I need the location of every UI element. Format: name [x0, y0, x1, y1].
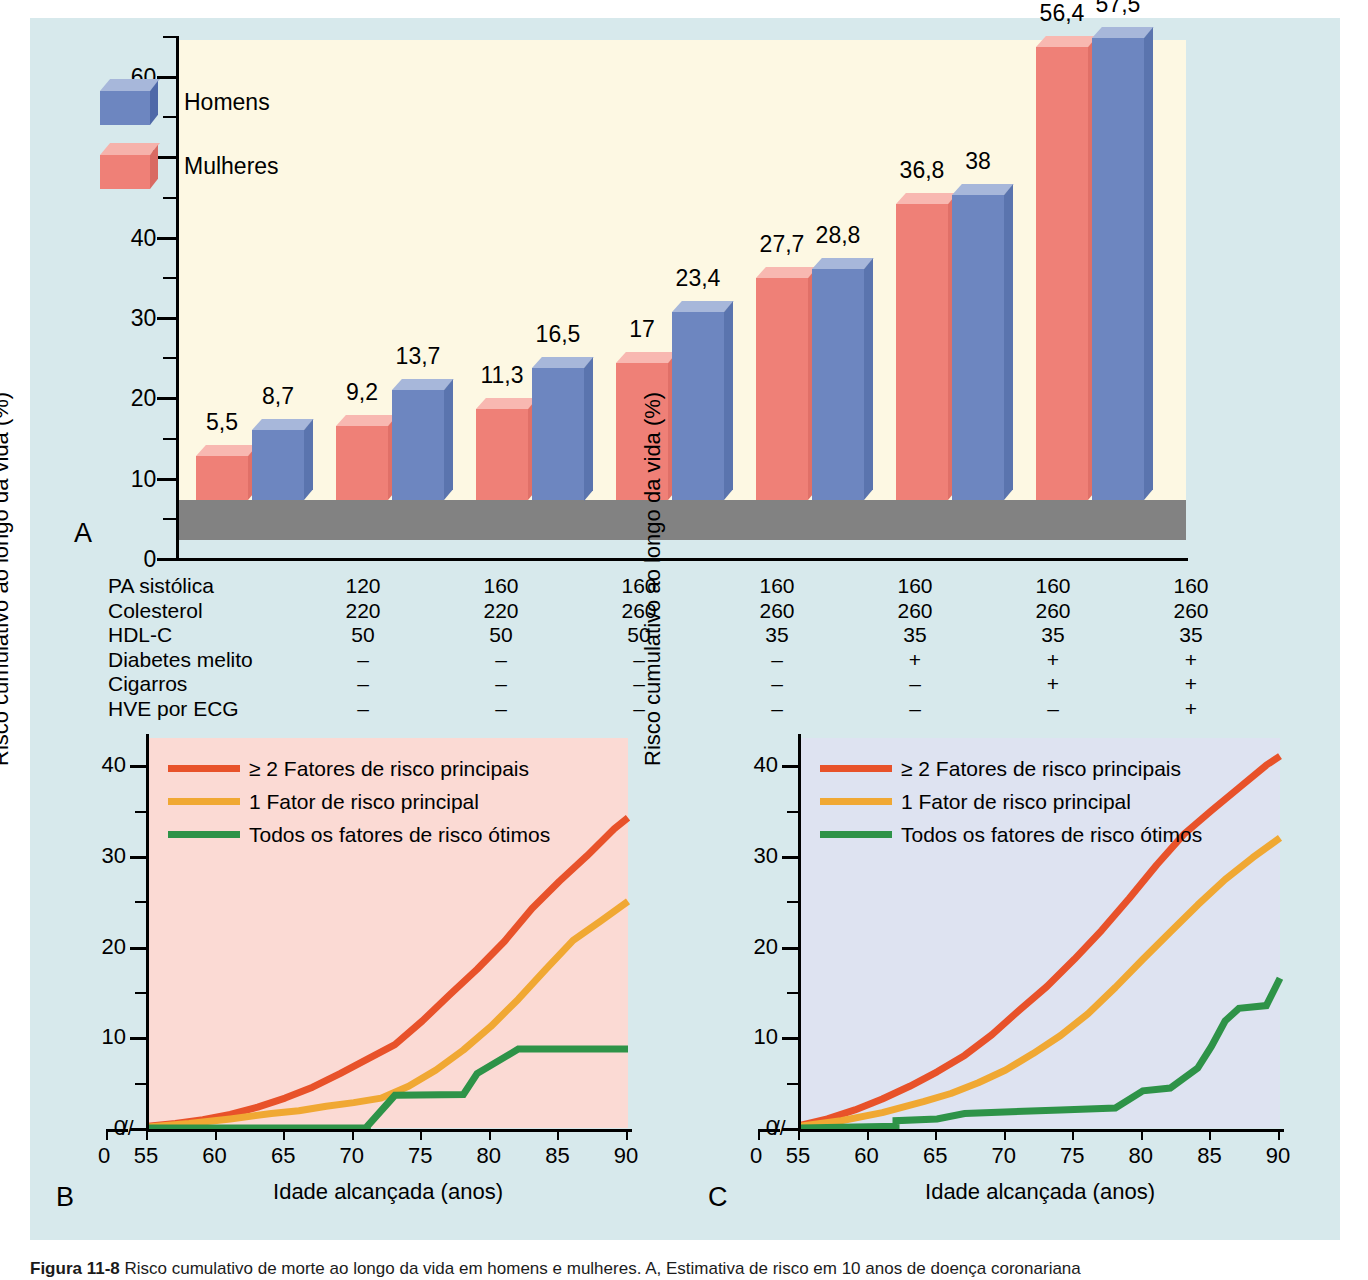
y-tick: 10: [782, 1037, 798, 1040]
panel-a-bar-homens: 8,7: [252, 430, 304, 500]
y-tick: 40: [130, 765, 146, 768]
risk-factor-value: 160: [570, 574, 708, 598]
x-tick-zero: [758, 1129, 760, 1140]
risk-factor-value: –: [984, 697, 1122, 721]
x-tick: [1209, 1129, 1211, 1140]
legend-label: ≥ 2 Fatores de risco principais: [249, 757, 529, 781]
y-tick: [787, 901, 798, 903]
risk-factor-label: HVE por ECG: [108, 697, 294, 721]
curve-two-plus: [148, 818, 628, 1126]
x-tick: [1278, 1129, 1280, 1140]
panel-a-bar-homens: 23,4: [672, 312, 724, 500]
bar-side-face: [1144, 28, 1153, 500]
x-tick-label: 70: [339, 1143, 363, 1169]
y-tick-label: 10: [102, 1024, 126, 1050]
y-tick-label: 30: [102, 843, 126, 869]
legend-item: ≥ 2 Fatores de risco principais: [168, 752, 550, 785]
legend-label: Todos os fatores de risco ótimos: [249, 823, 550, 847]
axis-break-icon: //: [122, 1116, 134, 1140]
x-tick: [798, 1129, 800, 1140]
panel-a-legend-item-men: Homens: [100, 70, 279, 134]
risk-factor-value: 35: [846, 623, 984, 647]
panel-a-bar-homens: 28,8: [812, 269, 864, 500]
risk-factor-value: –: [432, 697, 570, 721]
bar-side-face: [584, 357, 593, 500]
figure-caption: Figura 11-8 Risco cumulativo de morte ao…: [30, 1259, 1350, 1279]
panel-c-y-axis-title: Risco cumulativo ao longo da vida (%): [640, 392, 666, 766]
panel-a-y-tick-label: 10: [131, 466, 157, 493]
bar-side-face: [1004, 184, 1013, 500]
legend-line-swatch: [168, 798, 240, 805]
caption-figure-number: Figura 11-8: [30, 1259, 120, 1278]
y-tick: 20: [130, 947, 146, 950]
bar-front-face: [812, 269, 864, 500]
table-row: Diabetes melito––––+++: [108, 648, 1338, 673]
axis-break-icon: //: [774, 1116, 786, 1140]
risk-factor-value: +: [846, 648, 984, 672]
curve-one-factor: [800, 838, 1280, 1126]
x-tick-label: 80: [1129, 1143, 1153, 1169]
risk-factor-value: 160: [984, 574, 1122, 598]
panel-a-y-tick-label: 30: [131, 305, 157, 332]
y-tick: [787, 1083, 798, 1085]
panel-a-floor-plane: [178, 500, 1186, 540]
panel-b-x-axis: 05560657075808590: [146, 1129, 632, 1132]
panel-b-y-axis: 010203040: [146, 734, 149, 1132]
risk-factor-value: 120: [294, 574, 432, 598]
bar-front-face: [672, 312, 724, 500]
curve-one-factor: [148, 901, 628, 1127]
x-tick-label: 55: [134, 1143, 158, 1169]
panel-a-bar-mulheres: 56,4: [1036, 47, 1088, 500]
panel-a-bar-value-label: 5,5: [206, 409, 238, 436]
y-tick-label: 20: [754, 934, 778, 960]
panel-a-y-tick-label: 40: [131, 225, 157, 252]
bar-side-face: [444, 379, 453, 500]
panel-a-bar-mulheres: 36,8: [896, 204, 948, 500]
x-tick-zero: [106, 1129, 108, 1140]
risk-factor-value: 35: [984, 623, 1122, 647]
x-tick-label: 60: [202, 1143, 226, 1169]
x-tick: [1004, 1129, 1006, 1140]
y-tick: [135, 901, 146, 903]
legend-label: Todos os fatores de risco ótimos: [901, 823, 1202, 847]
panel-a-bar-value-label: 28,8: [816, 222, 861, 249]
risk-factor-table: PA sistólica120160160160160160160Coleste…: [108, 574, 1338, 721]
risk-factor-value: 220: [432, 599, 570, 623]
risk-factor-value: 35: [1122, 623, 1260, 647]
x-tick: [867, 1129, 869, 1140]
risk-factor-value: –: [432, 648, 570, 672]
panel-a-letter: A: [74, 518, 92, 549]
y-tick: [135, 992, 146, 994]
risk-factor-label: PA sistólica: [108, 574, 294, 598]
y-tick: [787, 992, 798, 994]
risk-factor-value: +: [1122, 697, 1260, 721]
risk-factor-value: 260: [1122, 599, 1260, 623]
x-tick-label: 90: [1266, 1143, 1290, 1169]
legend-line-swatch: [820, 765, 892, 772]
x-tick: [146, 1129, 148, 1140]
x-axis-zero-stub: [758, 1129, 780, 1132]
risk-factor-value: –: [846, 697, 984, 721]
risk-factor-value: –: [708, 672, 846, 696]
y-tick: 40: [782, 765, 798, 768]
risk-factor-value: 160: [708, 574, 846, 598]
bar-side-face: [864, 258, 873, 500]
risk-factor-value: –: [294, 672, 432, 696]
panel-c-x-axis: 05560657075808590: [798, 1129, 1284, 1132]
x-tick-label: 0: [750, 1143, 762, 1169]
legend-line-swatch: [820, 831, 892, 838]
risk-factor-value: 260: [846, 599, 984, 623]
table-row: Cigarros–––––++: [108, 672, 1338, 697]
y-tick-label: 40: [754, 752, 778, 778]
x-tick-label: 90: [614, 1143, 638, 1169]
bar-front-face: [756, 278, 808, 500]
panel-a-bar-homens: 13,7: [392, 390, 444, 500]
table-row: PA sistólica120160160160160160160: [108, 574, 1338, 599]
panel-a-bar-value-label: 8,7: [262, 383, 294, 410]
bar-side-face: [724, 301, 733, 500]
panel-a-bar-mulheres: 11,3: [476, 409, 528, 500]
bar-front-face: [532, 368, 584, 501]
legend-line-swatch: [820, 798, 892, 805]
bar-front-face: [392, 390, 444, 500]
risk-factor-label: Diabetes melito: [108, 648, 294, 672]
